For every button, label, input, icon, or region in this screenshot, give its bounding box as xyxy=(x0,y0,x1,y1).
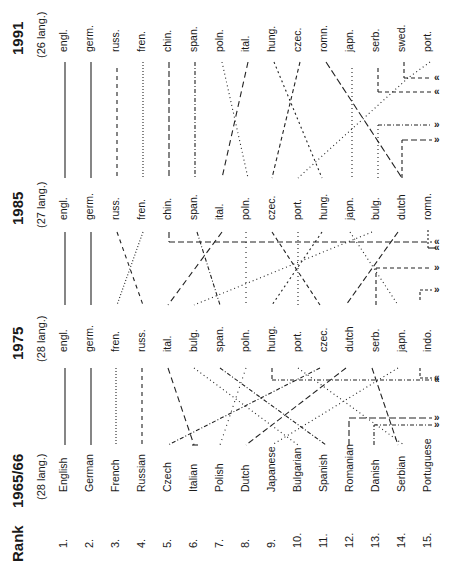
exit-arrow-icon: « xyxy=(434,72,440,83)
line-hungarian-91-85 xyxy=(274,62,322,178)
line-italian-85-75 xyxy=(168,232,222,305)
line-hungarian-85-75 xyxy=(272,232,322,305)
exit-arrow-icon: « xyxy=(434,236,440,247)
exit-arrow-icon: « xyxy=(434,86,440,97)
line-bulgarian-85-75 xyxy=(194,232,372,305)
line-russian-85-75 xyxy=(117,232,143,305)
enter-arrow-icon: » xyxy=(434,419,440,430)
line-romanian-91-85 xyxy=(326,62,402,178)
enter-arrow-icon: » xyxy=(434,119,440,130)
enter-arrow-icon: » xyxy=(434,262,440,273)
enter-arrow-icon: » xyxy=(434,284,440,295)
line-spanish-85-75 xyxy=(197,232,220,305)
line-polish-75-65 xyxy=(220,368,246,445)
line-czech-91-85 xyxy=(272,62,300,178)
connection-lines: « « » » « « » » « « » » xyxy=(0,0,461,565)
enter-arrow-icon: » xyxy=(434,134,440,145)
line-serbian-75-65 xyxy=(372,368,398,445)
line-portuguese-91-85 xyxy=(408,62,430,78)
line-czech-75-65 xyxy=(168,368,320,445)
exit-arrow-icon: « xyxy=(434,374,440,385)
line-italian-91-85 xyxy=(222,62,248,178)
